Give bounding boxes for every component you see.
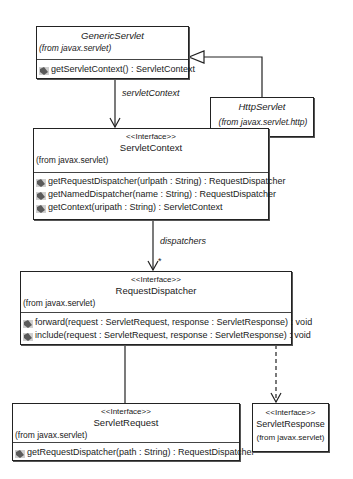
class-servletrequest[interactable]: <<Interface>> ServletRequest (from javax… [12, 403, 240, 461]
package-label: (from javax.servlet) [37, 42, 188, 54]
class-name: HttpServlet [211, 98, 313, 113]
operation: getRequestDispatcher(path : String) : Re… [13, 446, 239, 459]
stereotype-label: <<Interface>> [13, 404, 239, 417]
genericservlet-header: GenericServlet (from javax.servlet) [37, 27, 188, 60]
operation: include(request : ServletRequest, respon… [21, 329, 291, 342]
servletcontext-role-label: servletContext [122, 88, 180, 98]
dispatchers-role-label: dispatchers [160, 236, 206, 246]
operation-icon [39, 66, 49, 74]
class-name: ServletContext [34, 142, 268, 154]
dispatchers-multiplicity: * [158, 256, 162, 266]
class-name: RequestDispatcher [21, 285, 291, 297]
servletcontext-operations: getRequestDispatcher(urlpath : String) :… [34, 173, 268, 214]
genericservlet-operations: getServletContext() : ServletContext [37, 60, 188, 76]
operation: getContext(uripath : String) : ServletCo… [34, 201, 268, 214]
servletrequest-operations: getRequestDispatcher(path : String) : Re… [13, 443, 239, 459]
servletcontext-header: <<Interface>> ServletContext (from javax… [34, 129, 268, 173]
class-name: ServletResponse [253, 418, 328, 430]
operation: forward(request : ServletRequest, respon… [21, 316, 291, 329]
operation-icon [23, 332, 33, 340]
stereotype-label: <<Interface>> [34, 129, 268, 142]
package-label: (from javax.servlet) [253, 430, 328, 444]
operation: getServletContext() : ServletContext [37, 63, 188, 76]
operation-icon [23, 319, 33, 327]
class-name: GenericServlet [37, 27, 188, 42]
operation-icon [36, 204, 46, 212]
operation: getRequestDispatcher(urlpath : String) :… [34, 175, 268, 188]
servletrequest-header: <<Interface>> ServletRequest (from javax… [13, 404, 239, 443]
stereotype-label: <<Interface>> [253, 404, 328, 418]
operation-icon [36, 178, 46, 186]
class-genericservlet[interactable]: GenericServlet (from javax.servlet) getS… [36, 26, 189, 79]
package-label: (from javax.servlet) [13, 429, 239, 441]
stereotype-label: <<Interface>> [21, 272, 291, 285]
requestdispatcher-operations: forward(request : ServletRequest, respon… [21, 313, 291, 342]
class-requestdispatcher[interactable]: <<Interface>> RequestDispatcher (from ja… [20, 271, 292, 345]
package-label: (from javax.servlet.http) [211, 113, 313, 128]
generalization-arrowhead [189, 51, 204, 63]
class-name: ServletRequest [13, 417, 239, 429]
package-label: (from javax.servlet) [34, 154, 268, 166]
operation-icon [36, 191, 46, 199]
generalization-line [204, 57, 262, 97]
class-servletresponse[interactable]: <<Interface>> ServletResponse (from java… [252, 403, 329, 452]
class-servletcontext[interactable]: <<Interface>> ServletContext (from javax… [33, 128, 269, 220]
requestdispatcher-header: <<Interface>> RequestDispatcher (from ja… [21, 272, 291, 313]
package-label: (from javax.servlet) [21, 297, 291, 309]
operation: getNamedDispatcher(name : String) : Requ… [34, 188, 268, 201]
operation-icon [15, 449, 25, 457]
